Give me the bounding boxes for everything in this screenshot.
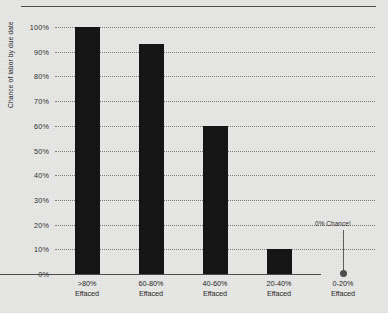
y-axis-tick-label: 40%: [9, 171, 49, 180]
y-axis-tick-label: 60%: [9, 121, 49, 130]
y-axis-tick-label: 90%: [9, 47, 49, 56]
bar: [203, 126, 228, 274]
annotation-dot-marker: [340, 270, 347, 277]
y-axis-title: Chance of labor by due date: [7, 21, 14, 108]
x-axis-baseline: [0, 274, 321, 275]
gridline: [55, 101, 375, 102]
y-axis-tick-label: 70%: [9, 97, 49, 106]
chart-plot-area: 100%90%80%70%60%50%40%30%20%10%0%: [55, 27, 375, 274]
y-axis-tick-label: 100%: [9, 23, 49, 32]
y-axis-tick-label: 50%: [9, 146, 49, 155]
y-axis-tick-label: 10%: [9, 245, 49, 254]
gridline: [55, 27, 375, 28]
bar: [139, 44, 164, 274]
y-axis-tick-label: 20%: [9, 220, 49, 229]
bar: [267, 249, 292, 274]
annotation-leader-line: [343, 230, 344, 272]
top-divider-rule: [21, 6, 376, 7]
annotation-label: 0% Chance!: [315, 220, 351, 227]
x-axis-tick-label: 0-20% Effaced: [303, 279, 383, 298]
bar: [75, 27, 100, 274]
gridline: [55, 52, 375, 53]
y-axis-tick-label: 80%: [9, 72, 49, 81]
gridline: [55, 76, 375, 77]
y-axis-tick-label: 30%: [9, 195, 49, 204]
